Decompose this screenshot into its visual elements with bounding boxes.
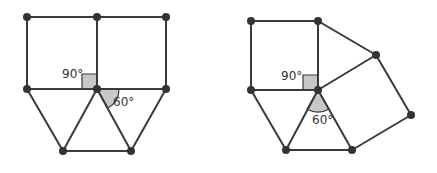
left-figure: 90° 60°: [23, 13, 170, 155]
right-figure: 90° 60°: [247, 17, 415, 154]
tiling-diagram: 90° 60° 90° 60°: [0, 0, 437, 173]
right-angle-label: 90°: [281, 69, 302, 83]
sixty-degree-label: 60°: [113, 95, 134, 109]
sixty-degree-label: 60°: [312, 113, 333, 127]
right-angle-label: 90°: [62, 67, 83, 81]
edges: [27, 17, 166, 151]
vertices: [247, 17, 415, 154]
edges: [251, 21, 411, 150]
